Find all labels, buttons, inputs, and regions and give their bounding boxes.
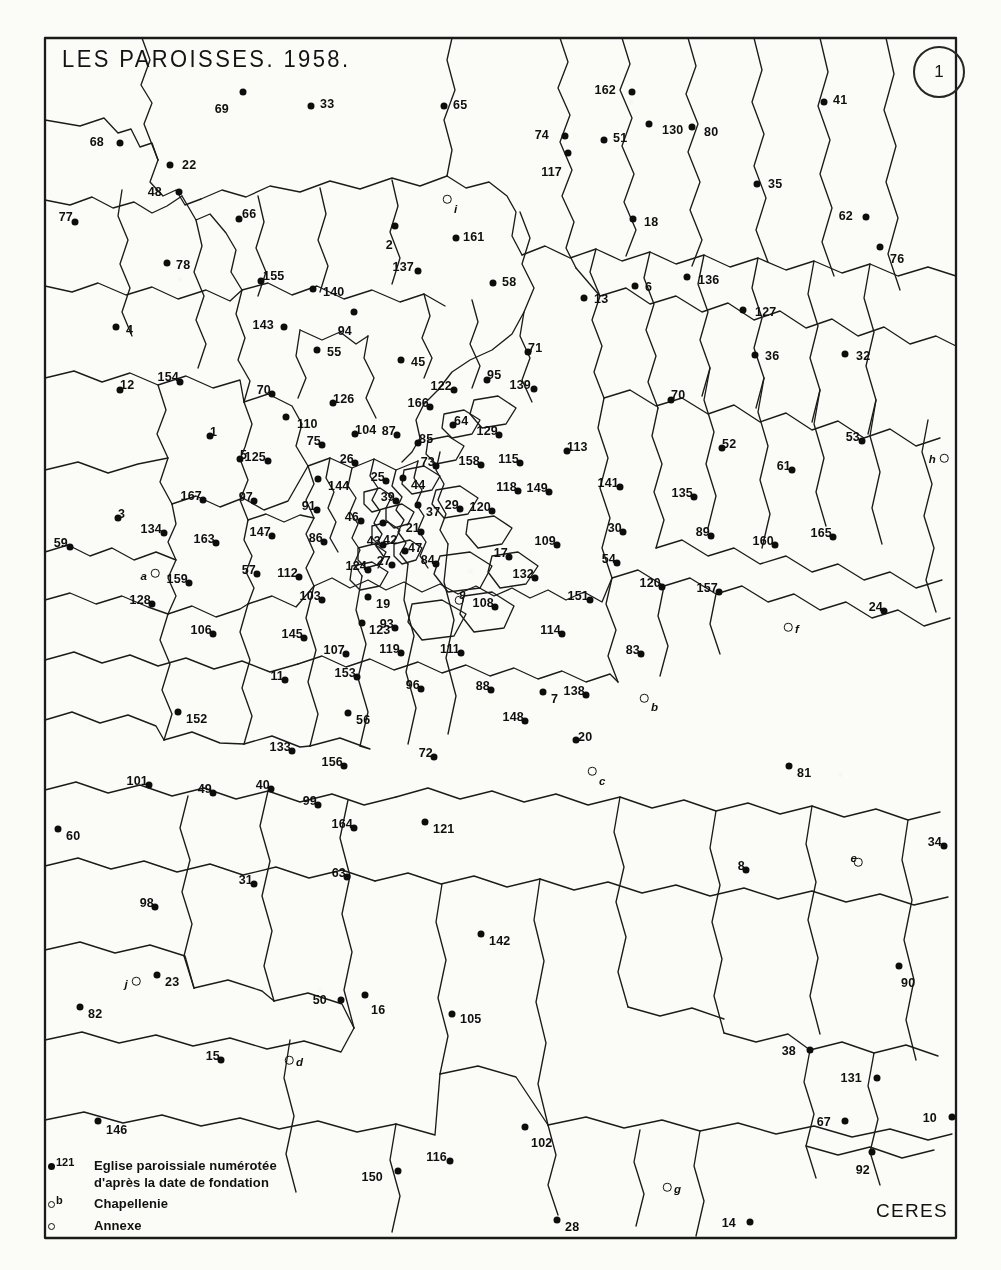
legend-item-text: Annexe xyxy=(94,1218,142,1235)
filled-dot-icon xyxy=(786,763,793,770)
marker-label: 33 xyxy=(320,97,334,111)
filled-dot-icon xyxy=(740,307,747,314)
marker-label: 159 xyxy=(167,572,188,586)
filled-dot-icon xyxy=(395,1168,402,1175)
filled-dot-icon xyxy=(629,89,636,96)
marker-label: 38 xyxy=(782,1044,796,1058)
filled-dot-icon xyxy=(415,268,422,275)
marker-label: 155 xyxy=(263,269,284,283)
marker-label: 99 xyxy=(303,794,317,808)
marker-label: 70 xyxy=(671,388,685,402)
marker-label: 7 xyxy=(551,692,558,706)
marker-label: 72 xyxy=(419,746,433,760)
legend-line-1: Eglise paroissiale numérotée xyxy=(94,1158,277,1173)
filled-dot-icon xyxy=(752,352,759,359)
filled-dot-icon xyxy=(240,89,247,96)
marker-label: 157 xyxy=(697,581,718,595)
marker-label: 134 xyxy=(141,522,162,536)
marker-label: 80 xyxy=(704,125,718,139)
marker-label: 89 xyxy=(696,525,710,539)
marker-label: 92 xyxy=(856,1163,870,1177)
legend-line-2: d'après la date de fondation xyxy=(94,1175,277,1192)
filled-dot-icon xyxy=(283,414,290,421)
legend: 121Eglise paroissiale numérotéed'après l… xyxy=(46,1152,346,1238)
filled-dot-icon xyxy=(400,475,407,482)
marker-label: 70 xyxy=(257,383,271,397)
open-dot-icon xyxy=(940,454,949,463)
marker-label: 117 xyxy=(541,165,562,179)
marker-label: 152 xyxy=(186,712,207,726)
marker-label: c xyxy=(599,775,606,787)
marker-label: 10 xyxy=(923,1111,937,1125)
marker-label: 84 xyxy=(421,553,435,567)
marker-label: 156 xyxy=(322,755,343,769)
filled-dot-icon xyxy=(565,150,572,157)
marker-label: 97 xyxy=(239,490,253,504)
marker-label: 107 xyxy=(324,643,345,657)
marker-label: j xyxy=(125,978,128,990)
marker-label: 141 xyxy=(598,476,619,490)
filled-dot-icon xyxy=(164,260,171,267)
marker-label: 137 xyxy=(393,260,414,274)
open-dot-icon xyxy=(784,623,793,632)
marker-label: 110 xyxy=(297,417,318,431)
marker-label: 13 xyxy=(594,292,608,306)
marker-label: 116 xyxy=(426,1150,447,1164)
marker-label: 40 xyxy=(256,778,270,792)
filled-dot-icon xyxy=(842,351,849,358)
marker-label: 16 xyxy=(371,1003,385,1017)
open-dot-icon xyxy=(640,694,649,703)
marker-label: 81 xyxy=(797,766,811,780)
marker-label: 77 xyxy=(59,210,73,224)
filled-dot-icon xyxy=(877,244,884,251)
marker-label: 88 xyxy=(476,679,490,693)
marker-label: 166 xyxy=(408,396,429,410)
marker-label: 122 xyxy=(431,379,452,393)
marker-label: 135 xyxy=(672,486,693,500)
open-dot-icon xyxy=(285,1056,294,1065)
filled-dot-icon xyxy=(807,1047,814,1054)
open-dot-icon: b xyxy=(46,1196,72,1210)
marker-label: 45 xyxy=(411,355,425,369)
marker-label: 74 xyxy=(535,128,549,142)
marker-label: 30 xyxy=(608,521,622,535)
filled-dot-icon xyxy=(896,963,903,970)
marker-label: 82 xyxy=(88,1007,102,1021)
marker-label: 59 xyxy=(54,536,68,550)
marker-label: 91 xyxy=(302,499,316,513)
marker-label: 93 xyxy=(380,617,394,631)
open-dot-icon xyxy=(443,195,452,204)
filled-dot-icon xyxy=(398,357,405,364)
marker-label: 161 xyxy=(463,230,484,244)
marker-label: 24 xyxy=(869,600,883,614)
marker-label: 71 xyxy=(528,341,542,355)
marker-label: 151 xyxy=(568,589,589,603)
filled-dot-icon xyxy=(345,710,352,717)
filled-dot-icon xyxy=(167,162,174,169)
filled-dot-icon xyxy=(117,140,124,147)
marker-label: 3 xyxy=(118,507,125,521)
marker-label: 83 xyxy=(626,643,640,657)
filled-dot-icon xyxy=(176,189,183,196)
marker-label: 148 xyxy=(503,710,524,724)
marker-label: 41 xyxy=(833,93,847,107)
marker-label: 57 xyxy=(242,563,256,577)
marker-label: 114 xyxy=(540,623,561,637)
marker-label: b xyxy=(651,701,658,713)
marker-label: 56 xyxy=(356,713,370,727)
marker-label: 73 xyxy=(421,455,435,469)
filled-dot-icon xyxy=(441,103,448,110)
figure-number-badge: 1 xyxy=(913,46,965,98)
open-dot-icon xyxy=(151,569,160,578)
marker-label: 17 xyxy=(494,546,508,560)
marker-label: 103 xyxy=(300,589,321,603)
legend-item: 121Eglise paroissiale numérotéed'après l… xyxy=(46,1158,277,1191)
open-dot-icon xyxy=(132,977,141,986)
marker-label: 50 xyxy=(313,993,327,1007)
marker-label: 102 xyxy=(531,1136,552,1150)
marker-label: 85 xyxy=(419,432,433,446)
filled-dot-icon xyxy=(949,1114,956,1121)
filled-dot-icon xyxy=(77,1004,84,1011)
filled-dot-icon xyxy=(632,283,639,290)
filled-dot-icon xyxy=(821,99,828,106)
